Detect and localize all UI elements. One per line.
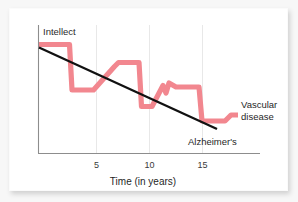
x-tick-label-15: 15 [197,160,207,170]
x-tick-label-5: 5 [94,160,99,170]
x-axis-title: Time (in years) [110,176,176,187]
series-label-vascular-line2: disease [241,111,274,122]
series-vascular-disease [39,45,238,122]
y-axis-label: Intellect [43,26,76,37]
x-tick-label-10: 10 [144,160,154,170]
series-label-alzheimers: Alzheimer's [188,136,237,147]
chart-canvas: Intellect 5 10 15 Time (in years) Vascul… [10,9,287,190]
figure-root: Intellect 5 10 15 Time (in years) Vascul… [0,0,298,202]
figure-card: Intellect 5 10 15 Time (in years) Vascul… [9,8,288,191]
series-label-vascular-line1: Vascular [241,99,277,110]
